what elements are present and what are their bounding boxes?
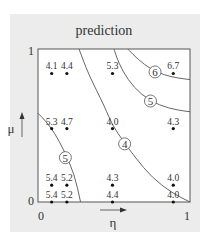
chart-title: prediction <box>76 23 133 38</box>
y-tick-bottom: 0 <box>28 194 34 208</box>
data-label-9: 5.2 <box>61 173 73 183</box>
data-label-15: 4.0 <box>167 190 179 200</box>
data-point-0 <box>50 72 53 75</box>
contour-chart: prediction 6545 4.14.45.36.75.34.74.04.3… <box>0 0 208 247</box>
data-label-11: 4.0 <box>167 173 179 183</box>
contour-label-1: 5 <box>148 95 154 107</box>
data-point-7 <box>172 127 175 130</box>
data-label-3: 6.7 <box>167 61 179 71</box>
contour-label-2: 4 <box>122 138 128 150</box>
data-point-10 <box>111 184 114 187</box>
data-point-11 <box>172 184 175 187</box>
data-point-15 <box>172 200 175 203</box>
data-point-3 <box>172 72 175 75</box>
data-point-12 <box>50 200 53 203</box>
data-point-6 <box>111 127 114 130</box>
data-label-7: 4.3 <box>167 117 179 127</box>
data-label-8: 5.4 <box>46 173 58 183</box>
data-label-1: 4.4 <box>61 61 73 71</box>
data-point-14 <box>111 200 114 203</box>
y-axis-arrow <box>20 112 25 137</box>
data-point-9 <box>65 184 68 187</box>
data-point-4 <box>50 127 53 130</box>
data-point-1 <box>65 72 68 75</box>
data-label-6: 4.0 <box>107 117 119 127</box>
x-axis-label: η <box>110 215 117 230</box>
data-point-8 <box>50 184 53 187</box>
data-point-13 <box>65 200 68 203</box>
data-label-5: 4.7 <box>61 117 73 127</box>
contour-label-0: 6 <box>152 66 158 78</box>
x-axis-arrow <box>100 208 127 213</box>
data-point-2 <box>111 72 114 75</box>
data-label-4: 5.3 <box>46 117 58 127</box>
x-tick-left: 0 <box>38 209 44 223</box>
y-tick-top: 1 <box>28 44 34 58</box>
contour-label-3: 5 <box>63 152 69 164</box>
data-label-0: 4.1 <box>46 61 58 71</box>
data-point-5 <box>65 127 68 130</box>
y-axis-label: μ <box>8 121 15 136</box>
data-label-13: 5.2 <box>61 190 73 200</box>
data-label-12: 5.4 <box>46 190 58 200</box>
data-label-2: 5.3 <box>107 61 119 71</box>
data-label-10: 4.3 <box>107 173 119 183</box>
data-label-14: 4.4 <box>107 190 119 200</box>
x-tick-right: 1 <box>184 209 190 223</box>
